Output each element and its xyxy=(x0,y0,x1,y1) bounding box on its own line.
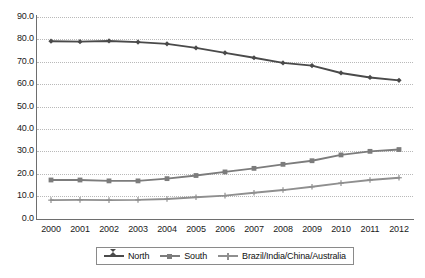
line-chart: 90.080.070.060.050.040.030.020.010.00.0 … xyxy=(0,0,425,278)
series-brazil-india-china-australia xyxy=(48,175,402,203)
diamond-marker xyxy=(280,60,285,65)
plus-marker xyxy=(48,197,54,203)
square-marker xyxy=(368,149,373,154)
square-marker xyxy=(310,158,315,163)
diamond-marker xyxy=(222,50,227,55)
plus-marker xyxy=(280,187,286,193)
plus-marker xyxy=(193,194,199,200)
diamond-marker-icon xyxy=(104,251,124,261)
legend-label: North xyxy=(128,251,149,261)
series-line xyxy=(51,41,399,80)
square-marker-icon xyxy=(160,251,180,261)
square-marker xyxy=(252,166,257,171)
plus-marker-icon xyxy=(218,251,238,261)
square-marker xyxy=(397,147,402,152)
legend-entry[interactable]: Brazil/India/China/Australia xyxy=(218,251,346,261)
square-marker xyxy=(165,176,170,181)
series-line xyxy=(51,150,399,181)
square-marker xyxy=(194,173,199,178)
diamond-marker xyxy=(367,75,372,80)
plus-marker xyxy=(135,197,141,203)
chart-legend: NorthSouthBrazil/India/China/Australia xyxy=(96,247,354,265)
series-layer xyxy=(0,0,425,278)
plus-marker xyxy=(251,190,257,196)
diamond-marker xyxy=(164,41,169,46)
plus-marker xyxy=(309,184,315,190)
square-marker xyxy=(339,153,344,158)
legend-label: South xyxy=(184,251,207,261)
diamond-marker xyxy=(106,38,111,43)
plus-marker xyxy=(164,196,170,202)
diamond-marker xyxy=(338,70,343,75)
diamond-marker xyxy=(48,39,53,44)
plus-marker xyxy=(77,197,83,203)
legend-entry[interactable]: North xyxy=(104,251,149,261)
plus-marker xyxy=(338,180,344,186)
square-marker xyxy=(49,178,54,183)
square-marker xyxy=(136,178,141,183)
square-marker xyxy=(107,178,112,183)
series-south xyxy=(49,147,402,183)
square-marker xyxy=(78,178,83,183)
diamond-marker xyxy=(396,78,401,83)
diamond-marker xyxy=(135,39,140,44)
diamond-marker xyxy=(193,45,198,50)
plus-marker xyxy=(222,193,228,199)
diamond-marker xyxy=(251,55,256,60)
series-north xyxy=(48,38,401,83)
diamond-marker xyxy=(77,39,82,44)
plus-marker xyxy=(367,177,373,183)
square-marker xyxy=(223,170,228,175)
square-marker xyxy=(281,162,286,167)
diamond-marker xyxy=(309,63,314,68)
legend-label: Brazil/India/China/Australia xyxy=(242,251,346,261)
plus-marker xyxy=(106,197,112,203)
plus-marker xyxy=(396,175,402,181)
legend-entry[interactable]: South xyxy=(160,251,207,261)
